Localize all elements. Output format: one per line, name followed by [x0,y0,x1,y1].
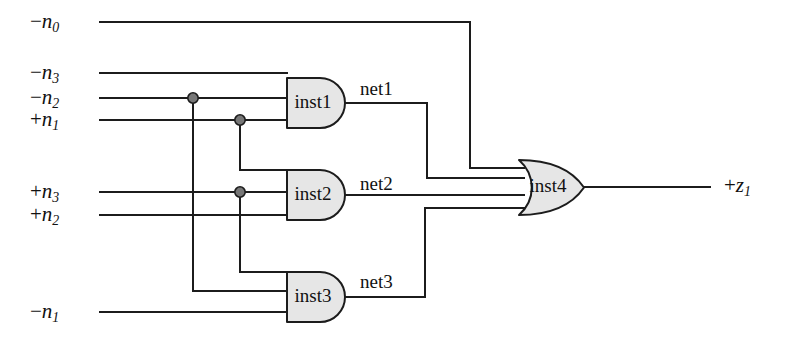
gate-inst2-label: inst2 [295,183,332,204]
input-label-n2-pos: +n2 [30,204,59,225]
input-label-n0: −n0 [30,11,59,32]
net3-label: net3 [360,271,393,292]
input-label-n1-pos: +n1 [30,109,59,130]
wire-branch-n1-pos-to-inst2 [240,120,287,170]
junction-dot-n1-pos [235,115,245,125]
junction-dot-n2-neg [188,93,198,103]
gate-inst1-label: inst1 [295,91,332,112]
junction-dot-n3-pos [235,187,245,197]
gate-inst3-label: inst3 [295,285,332,306]
wire-branch-n3-pos-to-inst3 [240,192,287,272]
input-label-n2-neg: −n2 [30,87,59,108]
output-label-z1: +z1 [724,175,751,196]
circuit-svg: inst1 net1 inst2 net2 inst3 net3 inst4 [0,0,787,345]
input-label-n1-neg: −n1 [30,301,59,322]
input-label-n3-neg: −n3 [30,62,59,83]
input-label-n3-pos: +n3 [30,181,59,202]
net1-label: net1 [360,78,393,99]
net2-label: net2 [360,173,393,194]
wire-net1 [345,103,524,178]
circuit-diagram: inst1 net1 inst2 net2 inst3 net3 inst4 −… [0,0,787,345]
gate-inst4-label: inst4 [530,175,567,196]
